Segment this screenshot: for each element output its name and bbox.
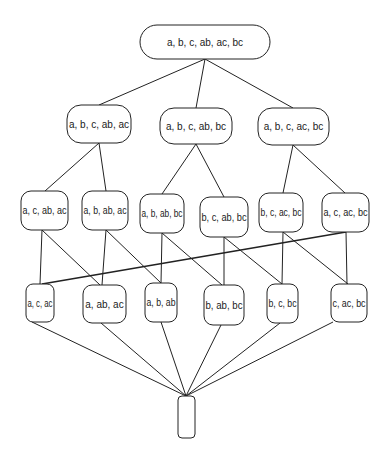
node-r2b: a, b, c, ab, bc xyxy=(160,108,232,144)
node-label: a, b, ab xyxy=(147,297,176,308)
node-r4a: a, c, ac xyxy=(26,284,54,322)
node-r4f: c, ac, bc xyxy=(331,284,367,322)
edge-line xyxy=(106,230,161,283)
edge-line xyxy=(32,322,186,396)
node-label: b, c, bc xyxy=(269,298,297,309)
edge-line xyxy=(99,143,106,191)
node-label: b, c, ac, bc xyxy=(261,207,302,218)
node-label: a, b, c, ac, bc xyxy=(264,121,323,132)
edge-line xyxy=(42,232,346,284)
edge-line xyxy=(186,322,333,396)
node-r2c: a, b, c, ac, bc xyxy=(258,108,329,145)
node-label: a, c, ac, bc xyxy=(324,207,368,218)
node-r3c: a, b, ab, bc xyxy=(140,194,184,233)
edge-line xyxy=(283,232,348,284)
node-label: a, b, c, ab, ac xyxy=(69,119,129,130)
edge-line xyxy=(99,59,205,105)
nodes-layer: a, b, c, ab, ac, bca, b, c, ab, aca, b, … xyxy=(21,25,369,438)
edge-line xyxy=(196,59,205,108)
node-r4e: b, c, bc xyxy=(267,284,298,323)
node-label: a, b, ab, bc xyxy=(142,208,183,219)
node-label: a, b, c, ab, bc xyxy=(166,121,226,132)
node-r4d: b, ab, bc xyxy=(204,285,244,325)
node-r4c: a, b, ab xyxy=(145,283,177,322)
node-r4b: a, ab, ac xyxy=(83,285,126,323)
node-label: a, c, ab, ac xyxy=(23,205,67,216)
edge-line xyxy=(346,232,347,284)
edge-line xyxy=(102,230,106,285)
node-r3d: b, c, ab, bc xyxy=(200,197,248,237)
node-r3f: a, c, ac, bc xyxy=(322,193,369,232)
node-top: a, b, c, ab, ac, bc xyxy=(140,25,270,59)
node-label: c, ac, bc xyxy=(333,298,366,309)
edge-line xyxy=(162,144,196,194)
node-r3a: a, c, ab, ac xyxy=(21,191,68,230)
edge-line xyxy=(293,145,345,193)
edge-line xyxy=(196,144,224,197)
edge-line xyxy=(186,325,221,396)
node-label: a, c, ac xyxy=(28,298,53,309)
edge-line xyxy=(283,145,293,193)
edge-line xyxy=(42,230,100,285)
edge-line xyxy=(186,323,280,396)
lattice-diagram: a, b, c, ab, ac, bca, b, c, ab, aca, b, … xyxy=(0,0,388,449)
edge-line xyxy=(45,143,99,191)
node-label: a, ab, ac xyxy=(85,299,123,310)
edge-line xyxy=(161,233,162,283)
edge-line xyxy=(282,232,283,284)
node-r2a: a, b, c, ab, ac xyxy=(67,105,131,143)
node-box xyxy=(178,396,195,438)
node-bottom xyxy=(178,396,195,438)
edge-line xyxy=(40,230,42,284)
node-label: a, b, ab, ac xyxy=(84,205,127,216)
node-label: b, ab, bc xyxy=(206,300,243,311)
node-r3e: b, c, ac, bc xyxy=(259,193,303,232)
edge-line xyxy=(205,59,293,108)
node-label: b, c, ab, bc xyxy=(202,212,247,223)
node-label: a, b, c, ab, ac, bc xyxy=(167,37,243,48)
node-r3b: a, b, ab, ac xyxy=(82,191,128,230)
